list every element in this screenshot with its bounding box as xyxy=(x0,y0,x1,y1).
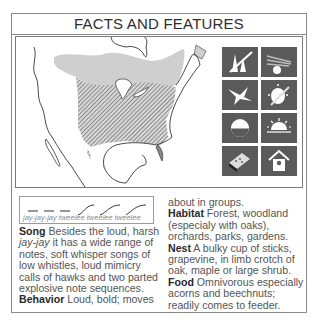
behavior-label: Behavior xyxy=(19,293,64,305)
habitat-label: Habitat xyxy=(168,207,204,219)
range-map xyxy=(15,36,303,188)
food-label: Food xyxy=(168,276,194,288)
birdhouse-icon xyxy=(261,146,297,176)
nest-label: Nest xyxy=(168,242,191,254)
feeder-icon xyxy=(222,146,258,176)
half-moon-icon xyxy=(222,113,258,143)
egg-nest-icon xyxy=(261,80,297,110)
forest-habitat-icon xyxy=(222,47,258,77)
song-diagram: jay-jay-jay tweelee tweelee tweelee xyxy=(19,196,154,224)
right-text-column: about in groups. Habitat Forest, woodlan… xyxy=(168,197,308,311)
bird-flight-icon xyxy=(222,80,258,110)
woodland-sun-icon xyxy=(261,47,297,77)
feature-icons-grid xyxy=(222,47,298,176)
page-title: FACTS AND FEATURES xyxy=(12,14,306,35)
sunrise-icon xyxy=(261,113,297,143)
left-text-column: Song Besides the loud, harsh jay-jay it … xyxy=(19,226,164,306)
facts-features-card: FACTS AND FEATURES xyxy=(11,13,307,313)
song-caption: jay-jay-jay tweelee tweelee tweelee xyxy=(23,213,141,222)
song-label: Song xyxy=(19,225,45,237)
